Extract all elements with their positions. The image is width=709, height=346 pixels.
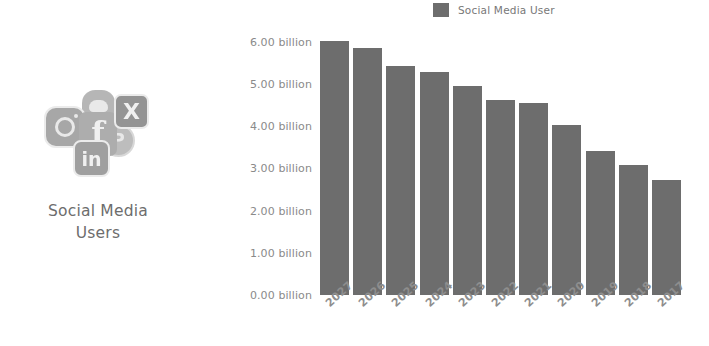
y-axis-tick-label: 1.00 billion [250, 246, 312, 259]
bar-2026[interactable] [353, 48, 382, 295]
bar-chart: Social Media User 6.00 billion5.00 billi… [196, 0, 709, 346]
caption-line-1: Social Media [48, 200, 148, 222]
y-axis-tick-label: 0.00 billion [250, 289, 312, 302]
x-twitter-icon: X [114, 94, 149, 129]
linkedin-icon: in [73, 140, 110, 177]
linkedin-glyph: in [81, 148, 101, 170]
y-axis-tick-label: 3.00 billion [250, 162, 312, 175]
y-axis-tick-label: 4.00 billion [250, 120, 312, 133]
snapchat-ghost-shape [89, 100, 108, 112]
bar-2027[interactable] [320, 41, 349, 295]
bar-2020[interactable] [552, 125, 581, 295]
bar-2025[interactable] [386, 66, 415, 295]
bar-2024[interactable] [420, 72, 449, 295]
x-twitter-glyph: X [123, 99, 140, 124]
bar-2023[interactable] [453, 86, 482, 295]
social-media-icon-cluster: P f X in [42, 88, 154, 180]
y-axis-tick-label: 2.00 billion [250, 204, 312, 217]
bar-2019[interactable] [586, 151, 615, 295]
instagram-ring-shape [55, 117, 75, 137]
y-axis-tick-label: 5.00 billion [250, 78, 312, 91]
social-media-illustration-panel: P f X in Social Media Users [0, 88, 196, 245]
bar-2021[interactable] [519, 103, 548, 295]
bar-2018[interactable] [619, 165, 648, 295]
plot-area: 2027202620252024202320222021202020192018… [320, 0, 709, 346]
chart-page: P f X in Social Media Users Soci [0, 0, 709, 346]
caption-line-2: Users [48, 222, 148, 244]
y-axis-tick-label: 6.00 billion [250, 35, 312, 48]
y-axis: 6.00 billion5.00 billion4.00 billion3.00… [196, 0, 320, 346]
instagram-dot-shape [74, 114, 78, 118]
panel-caption: Social Media Users [48, 200, 148, 245]
bar-2022[interactable] [486, 100, 515, 295]
bar-2017[interactable] [652, 180, 681, 295]
